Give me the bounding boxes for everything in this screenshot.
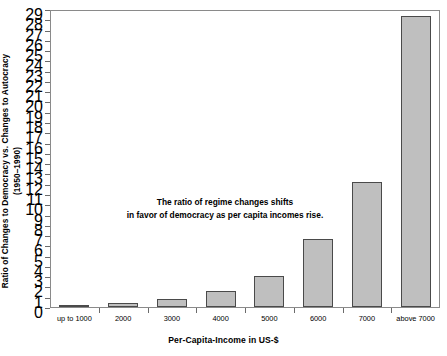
bar xyxy=(303,239,333,307)
chart-annotation: The ratio of regime changes shifts in fa… xyxy=(100,196,350,221)
bar xyxy=(401,16,431,307)
bar xyxy=(59,305,89,307)
bar xyxy=(157,299,187,307)
bar xyxy=(254,276,284,307)
x-axis-tick xyxy=(343,308,344,313)
bar-chart: Ratio of Changes to Democracy vs. Change… xyxy=(0,0,447,356)
bar xyxy=(206,291,236,307)
annotation-line-1: The ratio of regime changes shifts xyxy=(100,196,350,209)
bar xyxy=(108,303,138,307)
y-axis: 0123456789101112131415161718192021222324… xyxy=(0,0,50,356)
bar xyxy=(352,182,382,307)
x-axis-tick xyxy=(391,308,392,313)
x-axis-tick xyxy=(294,308,295,313)
x-axis-tick-label: above 7000 xyxy=(376,314,447,323)
x-axis-tick xyxy=(148,308,149,313)
x-axis-tick xyxy=(196,308,197,313)
plot-area xyxy=(50,10,440,308)
x-axis-tick xyxy=(245,308,246,313)
annotation-line-2: in favor of democracy as per capita inco… xyxy=(100,209,350,222)
x-axis-title: Per-Capita-Income in US-$ xyxy=(0,335,447,345)
y-axis-tick-label: 29 xyxy=(2,6,43,24)
x-axis-tick xyxy=(99,308,100,313)
y-axis-tick xyxy=(45,308,50,309)
